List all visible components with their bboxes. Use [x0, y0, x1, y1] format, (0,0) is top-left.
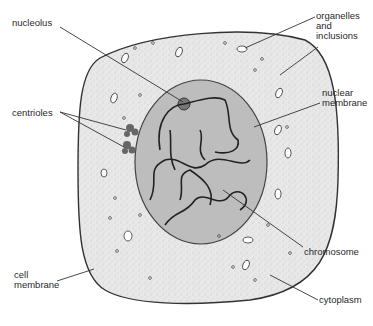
- label-cell-membrane: cell membrane: [14, 270, 59, 290]
- label-nucleolus: nucleolus: [12, 18, 52, 28]
- label-organelles-and-inclusions: organelles and inclusions: [316, 11, 360, 41]
- label-nuclear-membrane: nuclear membrane: [322, 88, 367, 108]
- label-centrioles: centrioles: [12, 108, 53, 118]
- label-cytoplasm: cytoplasm: [319, 295, 362, 305]
- label-chromosome: chromosome: [304, 247, 359, 257]
